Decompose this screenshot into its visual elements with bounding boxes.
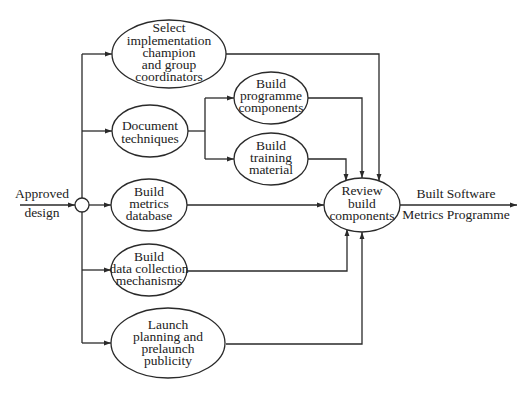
node-build-programme-components: Build programme components <box>234 72 308 124</box>
node-label: material <box>249 162 293 177</box>
node-label: components <box>238 100 303 115</box>
edge-datacollection-to-review <box>187 229 347 271</box>
edge-training-to-review <box>308 159 346 181</box>
input-label-line1: Approved <box>15 186 69 201</box>
node-review-build-components: Review build components <box>324 178 400 232</box>
junction-node <box>75 198 89 212</box>
node-label: mechanisms <box>116 273 183 288</box>
node-select-champion: Select implementation champion and group… <box>112 20 226 88</box>
node-label: publicity <box>144 353 192 368</box>
node-launch-planning: Launch planning and prelaunch publicity <box>111 308 225 378</box>
edge-programme-to-review <box>308 98 362 178</box>
edge-launch-to-review <box>226 232 362 344</box>
output-label-line1: Built Software <box>416 186 495 201</box>
node-build-training-material: Build training material <box>234 133 308 185</box>
output-label-line2: Metrics Programme <box>402 207 510 222</box>
node-label: coordinators <box>135 69 202 84</box>
node-label: techniques <box>121 131 179 146</box>
node-label: components <box>329 208 394 223</box>
node-build-metrics-database: Build metrics database <box>111 179 187 231</box>
node-build-data-collection: Build data collection mechanisms <box>109 244 188 296</box>
process-diagram: Approved design Built Software Metrics P… <box>0 0 531 395</box>
input-label-line2: design <box>24 205 59 220</box>
node-document-techniques: Document techniques <box>112 105 188 157</box>
node-label: database <box>126 208 172 223</box>
